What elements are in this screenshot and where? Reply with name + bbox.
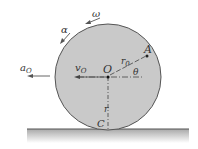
ground-shading: [27, 129, 189, 143]
r-label: r: [104, 104, 109, 114]
alpha-label: α: [61, 24, 68, 35]
wheel-diagram: ω α aO vO O A r0 θ r C: [0, 0, 198, 149]
omega-label: ω: [92, 8, 100, 19]
center-label: O: [103, 63, 112, 76]
theta-label: θ: [133, 67, 139, 77]
omega-arrow-head: [85, 20, 91, 24]
a-o-label: aO: [20, 62, 32, 75]
point-a-label: A: [143, 43, 152, 56]
contact-point-label: C: [97, 118, 105, 129]
